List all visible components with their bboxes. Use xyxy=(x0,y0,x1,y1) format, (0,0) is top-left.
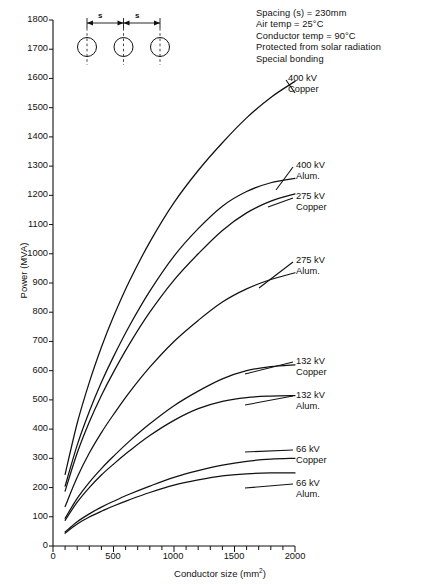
chart-canvas: 1800 1700 1600 1500 1400 1300 1200 1100 … xyxy=(0,0,430,584)
label-leader-lines xyxy=(245,80,295,488)
leader-line-6 xyxy=(245,450,293,452)
curve-132-kv-alum xyxy=(65,396,295,521)
y-tick-marks xyxy=(49,20,53,546)
arrow-head-right xyxy=(154,20,160,25)
arrow-head-left xyxy=(87,20,93,25)
curve-400-kv-copper xyxy=(65,81,295,474)
arrow-head-mid-left xyxy=(118,20,124,25)
data-curves xyxy=(65,81,295,533)
x-tick-marks xyxy=(53,546,295,552)
chart-svg xyxy=(0,0,430,584)
arrow-head-mid-right xyxy=(124,20,130,25)
curve-275-kv-alum xyxy=(65,273,295,507)
conductor-spacing-diagram xyxy=(78,18,170,65)
curve-400-kv-alum xyxy=(65,178,295,486)
curve-66-kv-copper xyxy=(65,458,295,532)
curve-66-kv-alum xyxy=(65,473,295,533)
leader-line-2 xyxy=(268,198,293,207)
curve-275-kv-copper xyxy=(65,194,295,491)
axes-group xyxy=(53,20,295,546)
leader-line-4 xyxy=(245,362,293,374)
leader-line-7 xyxy=(245,484,293,488)
